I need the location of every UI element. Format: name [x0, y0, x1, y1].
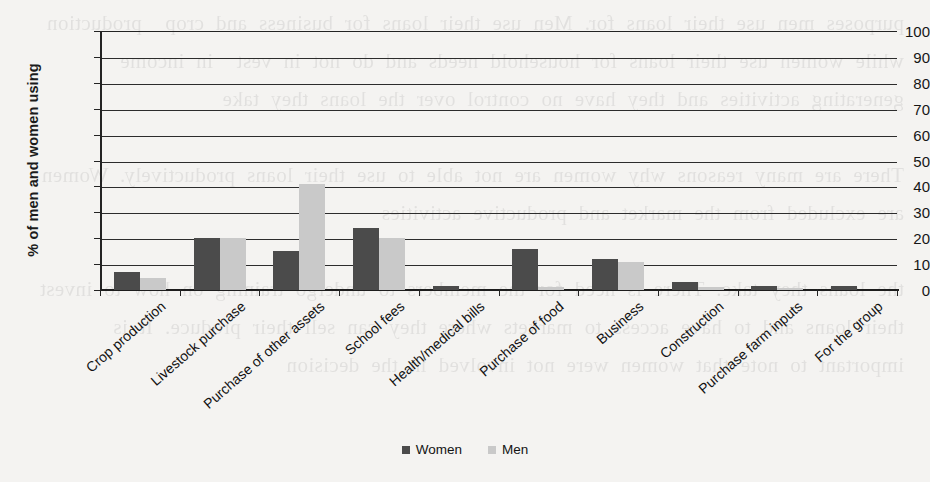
- bar-men: [698, 287, 724, 290]
- bar-men: [538, 287, 564, 290]
- bars-layer: [100, 31, 897, 290]
- x-tick-mark: [180, 289, 181, 296]
- x-axis-label: For the group: [812, 298, 886, 365]
- bar-men: [299, 184, 325, 290]
- bar-men: [140, 278, 166, 290]
- x-tick-mark: [578, 289, 579, 296]
- bar-women: [831, 286, 857, 290]
- legend-item-women: Women: [402, 442, 462, 457]
- bar-women: [672, 282, 698, 290]
- x-tick-mark: [259, 289, 260, 296]
- x-axis-label: Crop production: [83, 298, 169, 375]
- bar-women: [273, 251, 299, 290]
- bar-men: [220, 238, 246, 290]
- legend-item-men: Men: [488, 442, 528, 457]
- x-tick-mark: [499, 289, 500, 296]
- x-tick-mark: [897, 289, 898, 296]
- x-axis-label: Construction: [656, 298, 726, 362]
- bar-women: [353, 228, 379, 290]
- legend-swatch-women: [402, 446, 410, 454]
- x-tick-mark: [738, 289, 739, 296]
- bar-women: [114, 272, 140, 290]
- bar-women: [194, 238, 220, 290]
- bar-chart: % of men and women using 010203040506070…: [0, 0, 930, 482]
- bar-women: [433, 286, 459, 290]
- x-tick-mark: [817, 289, 818, 296]
- chart-legend: WomenMen: [0, 442, 930, 457]
- bar-women: [751, 286, 777, 290]
- x-tick-mark: [100, 289, 101, 296]
- x-tick-mark: [658, 289, 659, 296]
- bar-women: [512, 249, 538, 290]
- bar-men: [379, 238, 405, 290]
- bar-men: [618, 262, 644, 290]
- bar-men: [777, 288, 803, 290]
- legend-label: Women: [416, 442, 462, 457]
- x-axis-label: School fees: [342, 298, 408, 358]
- legend-label: Men: [502, 442, 528, 457]
- x-tick-mark: [339, 289, 340, 296]
- bar-women: [592, 259, 618, 290]
- x-axis-label: Purchase of food: [476, 298, 566, 380]
- y-axis-title: % of men and women using: [25, 31, 41, 289]
- x-tick-mark: [419, 289, 420, 296]
- legend-swatch-men: [488, 446, 496, 454]
- x-axis-label: Business: [593, 298, 646, 347]
